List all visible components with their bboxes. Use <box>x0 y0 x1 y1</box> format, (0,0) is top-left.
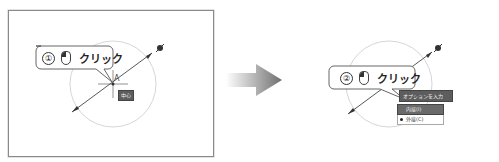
pencil-cursor-icon <box>156 44 164 52</box>
mouse-left-click-icon <box>61 51 71 65</box>
click-instruction-1: クリック <box>79 50 123 66</box>
click-instruction-2: クリック <box>377 70 421 86</box>
menu-option-circumscribed[interactable]: 外接(C) <box>397 115 444 125</box>
step-number-2: ② <box>340 72 353 85</box>
menu-option-inscribed[interactable]: 内接(I) <box>397 104 444 115</box>
mouse-left-click-icon <box>359 71 369 85</box>
callout-step1: ① クリック <box>42 49 123 67</box>
bullet-icon <box>400 118 403 121</box>
point-label-a: A <box>114 74 120 83</box>
dynamic-input-menu: オプションを入力 内接(I) 外接(C) <box>397 90 453 125</box>
pencil-cursor-icon-2 <box>434 44 442 52</box>
next-step-arrow-icon <box>226 64 282 96</box>
menu-prompt: オプションを入力 <box>399 90 453 102</box>
callout-step2: ② クリック <box>340 69 421 87</box>
menu-option-label: 外接(C) <box>406 116 423 122</box>
center-tooltip: 中心 <box>118 90 134 101</box>
step-number-1: ① <box>42 52 55 65</box>
